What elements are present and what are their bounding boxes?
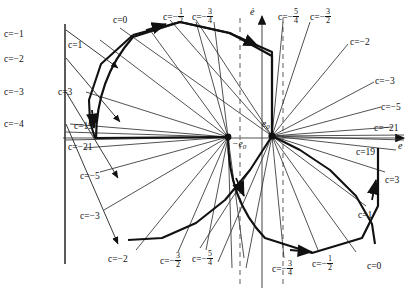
label-c-neg-half-bottom: c=−12: [312, 255, 333, 272]
frac-den: 2: [325, 17, 331, 25]
trajectory-loop: [89, 22, 375, 244]
label-c-0-top: c=0: [113, 16, 127, 26]
frac-den: 4: [207, 17, 213, 25]
right-focus-dot: [268, 132, 275, 139]
label-c-neg-21-left: c=−21: [68, 143, 92, 153]
figure-canvas: ė e −e0 e0 c=−1 c=−2 c=−3 c=−4 c=1 c=3 c…: [0, 0, 419, 294]
label-c-neg-5-left: c=−5: [80, 172, 100, 182]
label-prefix: c=−: [272, 264, 287, 274]
left-focus-dot: [225, 134, 232, 141]
label-c-0-bottom-right: c=0: [367, 262, 381, 272]
label-c-neg-2-left: c=−2: [4, 55, 24, 65]
label-c-neg-3-lower-left: c=−3: [80, 212, 100, 222]
label-c-neg-5-right: c=−5: [381, 103, 401, 113]
label-c-neg-1-left: c=−1: [4, 30, 24, 40]
right-focus-label: e0: [262, 120, 270, 131]
label-prefix: c=−: [192, 12, 207, 22]
label-c-neg-five-quarters-bottom: c=−54: [192, 250, 213, 267]
label-c-neg-three-quarters-bottom: c=−34: [272, 260, 293, 277]
label-c-neg-half-top: c=−12: [163, 8, 184, 25]
frac-den: 4: [293, 17, 299, 25]
label-prefix: c=−: [192, 254, 207, 264]
label-c-1-right: c=1: [358, 211, 372, 221]
frac-den: 2: [327, 264, 333, 272]
label-c-neg-three-halves-bottom: c=−32: [160, 252, 181, 269]
label-prefix: c=−: [163, 12, 178, 22]
label-c-1-left: c=1: [68, 41, 82, 51]
frac-den: 2: [178, 17, 184, 25]
label-c-19-left: c=19: [74, 122, 93, 132]
frac-den: 2: [175, 261, 181, 269]
left-focus-label: −e0: [232, 140, 246, 151]
label-prefix: c=−: [312, 259, 327, 269]
label-prefix: c=−: [310, 12, 325, 22]
label-c-19-right: c=19: [356, 148, 375, 158]
label-c-neg-3-left: c=−3: [4, 88, 24, 98]
frac-den: 4: [287, 269, 293, 277]
label-c-3-right: c=3: [385, 176, 399, 186]
x-axis-label: e: [398, 140, 402, 151]
left-focus-pencil: [66, 22, 244, 268]
label-c-neg-4-left: c=−4: [4, 120, 24, 130]
y-axis-label: ė: [250, 6, 254, 17]
label-c-neg-three-quarters-top: c=−34: [192, 8, 213, 25]
label-c-neg-3-right: c=−3: [375, 77, 395, 87]
label-c-3-left: c=3: [58, 88, 72, 98]
label-c-neg-2-right: c=−2: [350, 38, 370, 48]
label-c-neg-2-lower-left: c=−2: [108, 255, 128, 265]
label-c-neg-three-halves-top: c=−32: [310, 8, 331, 25]
label-prefix: c=−: [278, 12, 293, 22]
frac-den: 4: [207, 259, 213, 267]
label-prefix: c=−: [160, 256, 175, 266]
label-c-neg-21-right: c=−21: [374, 124, 398, 134]
label-c-neg-five-quarters-top: c=−54: [278, 8, 299, 25]
